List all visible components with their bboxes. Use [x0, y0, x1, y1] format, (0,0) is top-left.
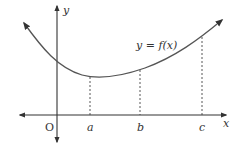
marker-label-c: c — [199, 121, 205, 134]
curve-label: y = f(x) — [135, 39, 177, 52]
origin-label: O — [45, 121, 54, 134]
function-curve — [24, 20, 222, 77]
y-axis-label: y — [62, 4, 70, 17]
marker-label-a: a — [87, 121, 94, 134]
x-axis-label: x — [223, 117, 230, 130]
marker-label-b: b — [137, 121, 144, 134]
function-graph: y x O a b c y = f(x) — [0, 0, 240, 148]
